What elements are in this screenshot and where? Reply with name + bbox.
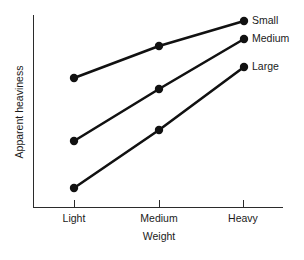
x-tick-label-medium: Medium [140,212,178,224]
x-axis-title: Weight [143,230,176,242]
x-tick-label-light: Light [63,212,86,224]
data-point-small-medium [155,42,163,50]
data-point-small-heavy [240,17,248,25]
series-label-small: Small [252,14,278,26]
chart-container: Small Medium Large Light Medium Heavy We… [0,0,304,260]
data-point-medium-light [70,137,78,145]
series-label-medium: Medium [252,32,290,44]
data-point-small-light [70,74,78,82]
series-label-large: Large [252,60,279,72]
y-axis-title: Apparent heaviness [13,66,25,159]
data-point-large-heavy [240,63,248,71]
line-chart: Small Medium Large Light Medium Heavy We… [0,0,304,260]
data-point-medium-medium [155,85,163,93]
data-point-large-medium [155,126,163,134]
data-point-medium-heavy [240,35,248,43]
x-tick-label-heavy: Heavy [228,212,259,224]
data-point-large-light [70,184,78,192]
